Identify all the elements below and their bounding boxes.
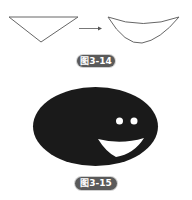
right-eye-icon	[131, 118, 138, 125]
figure-label-3-14: 图3-14	[77, 55, 115, 67]
figure-3-15	[33, 87, 158, 166]
figure-label-3-15: 图3-15	[75, 177, 117, 190]
curved-shape	[108, 17, 179, 43]
face-ellipse	[33, 87, 158, 166]
right-arrow-icon	[79, 27, 102, 31]
figure-3-14	[9, 17, 179, 43]
left-eye-icon	[116, 118, 123, 125]
triangle-shape	[9, 17, 78, 42]
figure-canvas	[0, 0, 192, 200]
